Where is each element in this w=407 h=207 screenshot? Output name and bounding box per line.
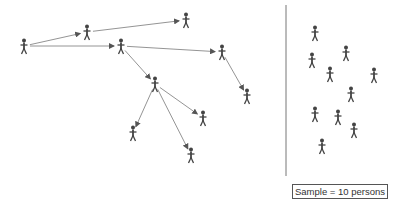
person-icon bbox=[188, 148, 195, 164]
person-icon bbox=[200, 111, 207, 127]
arrow-G-to-J bbox=[158, 89, 188, 148]
arrow-G-to-I bbox=[136, 89, 153, 126]
person-icon bbox=[183, 13, 190, 29]
person-icon bbox=[118, 39, 125, 55]
person-icon bbox=[219, 45, 226, 61]
person-icon bbox=[343, 46, 350, 62]
person-icon bbox=[244, 89, 251, 105]
network-sample-group bbox=[21, 13, 251, 164]
arrow-A-to-B bbox=[30, 34, 80, 45]
sampling-diagram bbox=[0, 0, 407, 207]
network-arrows bbox=[30, 21, 244, 149]
person-icon bbox=[309, 53, 316, 69]
person-icon bbox=[312, 26, 319, 42]
person-icon bbox=[335, 110, 342, 126]
person-icon bbox=[312, 107, 319, 123]
sample-size-label: Sample = 10 persons bbox=[292, 184, 388, 199]
arrow-E-to-F bbox=[225, 57, 244, 90]
person-icon bbox=[351, 123, 358, 139]
person-icon bbox=[348, 87, 355, 103]
arrow-B-to-D bbox=[93, 21, 179, 31]
person-icon bbox=[84, 25, 91, 41]
arrow-C-to-E bbox=[127, 46, 215, 51]
arrow-G-to-H bbox=[160, 87, 197, 113]
person-icon bbox=[130, 126, 137, 142]
person-icon bbox=[319, 139, 326, 155]
sample-size-text: Sample = 10 persons bbox=[295, 186, 385, 197]
person-icon bbox=[371, 68, 378, 84]
random-sample-group bbox=[309, 26, 378, 155]
person-icon bbox=[327, 67, 334, 83]
arrow-C-to-G bbox=[125, 50, 150, 78]
person-icon bbox=[21, 39, 28, 55]
